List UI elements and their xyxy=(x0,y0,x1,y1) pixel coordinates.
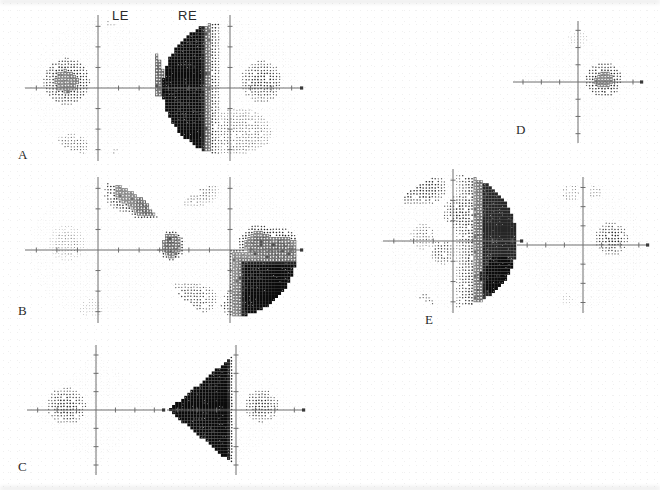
panel-letter-e: E xyxy=(425,312,433,328)
visual-field-plot-d-re xyxy=(512,20,644,144)
edge-smudge-top xyxy=(0,0,660,3)
visual-field-plot-b-le xyxy=(24,176,172,324)
visual-field-plot-e-le xyxy=(382,168,524,314)
visual-field-plot-a-le xyxy=(24,14,172,162)
visual-field-plot-b-re xyxy=(156,176,304,324)
column-header-re: RE xyxy=(178,8,197,23)
panel-letter-d: D xyxy=(516,122,525,138)
visual-field-plot-c-re xyxy=(166,344,306,476)
visual-field-plot-e-re xyxy=(516,176,650,314)
panel-letter-a: A xyxy=(18,147,27,163)
column-header-le: LE xyxy=(112,8,129,23)
visual-field-plot-a-re xyxy=(156,14,304,162)
visual-field-plot-c-le xyxy=(26,344,166,476)
panel-letter-b: B xyxy=(18,303,27,319)
panel-letter-c: C xyxy=(18,459,27,475)
visual-field-figure: LEREABCDE xyxy=(0,0,660,490)
